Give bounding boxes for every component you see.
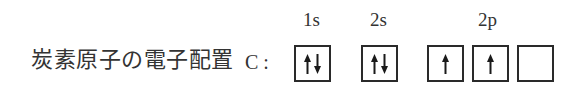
spin-up-arrow-icon (487, 54, 494, 74)
orbital-box-2s (361, 45, 398, 82)
caption-text: 炭素原子の電子配置 (31, 46, 234, 74)
orbital-label-2p: 2p (478, 8, 497, 32)
spin-up-arrow-icon (304, 54, 311, 74)
orbital-label-1s: 1s (303, 8, 320, 32)
orbital-box-2p-1 (427, 45, 464, 82)
spin-up-arrow-icon (371, 54, 378, 74)
spin-up-arrow-icon (442, 54, 449, 74)
orbital-box-1s (294, 45, 331, 82)
spin-down-arrow-icon (314, 54, 321, 74)
element-symbol: C : (245, 48, 269, 76)
spin-down-arrow-icon (381, 54, 388, 74)
orbital-box-2p-2 (472, 45, 509, 82)
orbital-box-2p-3 (517, 45, 554, 82)
orbital-label-2s: 2s (370, 8, 387, 32)
